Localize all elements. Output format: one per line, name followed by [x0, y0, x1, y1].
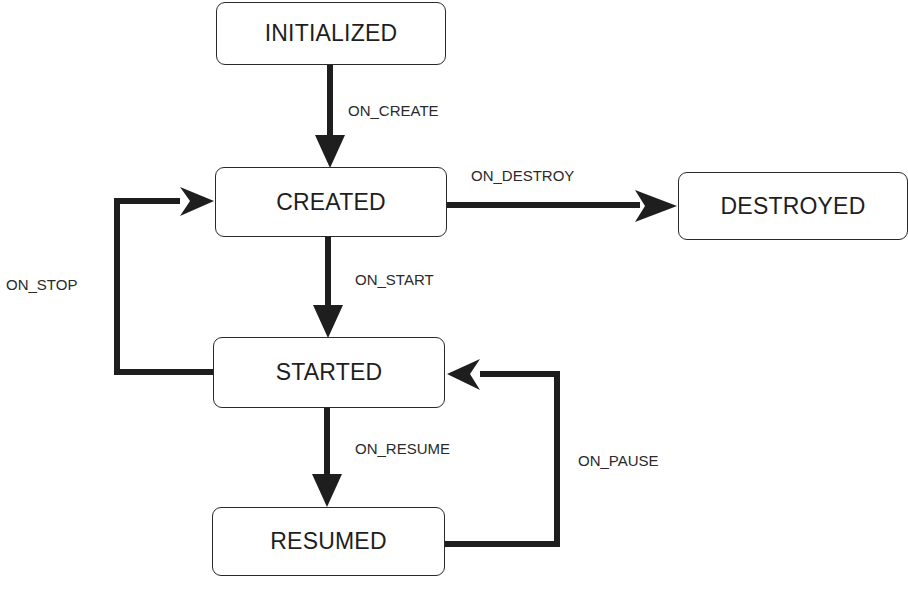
arrowhead-icon [635, 190, 677, 222]
state-label: STARTED [276, 359, 383, 386]
label-on-pause: ON_PAUSE [578, 452, 659, 469]
state-created: CREATED [215, 167, 447, 237]
state-started: STARTED [213, 337, 445, 408]
state-label: DESTROYED [721, 193, 866, 220]
state-destroyed: DESTROYED [678, 172, 908, 240]
label-on-start: ON_START [355, 271, 434, 288]
edge-on-pause [445, 374, 557, 544]
state-resumed: RESUMED [212, 507, 445, 576]
label-on-resume: ON_RESUME [355, 440, 450, 457]
arrowhead-icon [180, 187, 214, 216]
label-on-stop: ON_STOP [6, 276, 77, 293]
state-initialized: INITIALIZED [216, 2, 446, 65]
label-on-create: ON_CREATE [348, 102, 439, 119]
arrowhead-icon [447, 359, 480, 390]
transition-edges [0, 0, 908, 601]
state-label: INITIALIZED [265, 20, 398, 47]
edge-on-stop [117, 201, 213, 372]
arrowhead-icon [315, 135, 345, 168]
state-label: RESUMED [270, 528, 386, 555]
arrowhead-icon [313, 305, 343, 338]
arrowhead-icon [312, 474, 342, 507]
state-label: CREATED [276, 189, 386, 216]
label-on-destroy: ON_DESTROY [471, 167, 574, 184]
